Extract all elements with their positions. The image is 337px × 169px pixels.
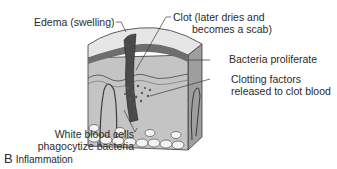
label-clotting-factors: Clotting factors released to clot blood — [231, 73, 331, 97]
label-clot-line2: becomes a scab) — [173, 23, 272, 35]
panel-letter: B — [4, 151, 13, 166]
caption-text: Inflammation — [16, 154, 73, 165]
label-wbc-line1: White blood cells — [2, 128, 134, 140]
label-white-blood-cells: White blood cells phagocytize bacteria — [2, 128, 134, 152]
figure-caption: BInflammation — [4, 151, 73, 166]
label-clot-line1: Clot (later dries and — [173, 11, 272, 23]
label-edema: Edema (swelling) — [34, 16, 115, 28]
label-clotting-line1: Clotting factors — [231, 73, 331, 85]
label-clotting-line2: released to clot blood — [231, 85, 331, 97]
label-bacteria-proliferate: Bacteria proliferate — [229, 53, 317, 65]
label-clot: Clot (later dries and becomes a scab) — [173, 11, 272, 35]
